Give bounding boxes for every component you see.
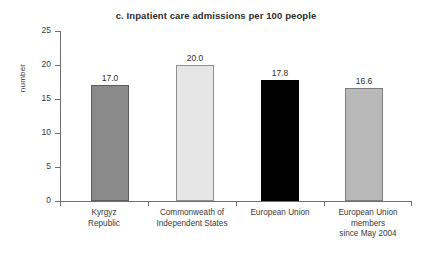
y-tick-25: 25	[55, 31, 60, 32]
x-tick-1	[148, 201, 149, 206]
y-tick-label-0: 0	[46, 195, 51, 205]
y-tick-label-25: 25	[42, 25, 51, 35]
x-tick-2	[236, 201, 237, 206]
x-category-label-1: Commonweath of Independent States	[148, 208, 236, 229]
x-tick-4	[411, 201, 412, 206]
y-tick-label-20: 20	[42, 59, 51, 69]
y-tick-label-5: 5	[46, 161, 51, 171]
chart-figure: c. Inpatient care admissions per 100 peo…	[0, 0, 432, 258]
y-axis-label: number	[18, 48, 30, 108]
plot-area: 0 5 10 15 20 25 17.0 20.0 17.8	[60, 31, 412, 201]
x-tick-0	[60, 201, 61, 206]
y-tick-5: 5	[55, 167, 60, 168]
x-tick-3	[324, 201, 325, 206]
bar-value-label: 17.8	[272, 68, 289, 78]
x-category-label-3: European Union members since May 2004	[324, 208, 412, 240]
y-tick-15: 15	[55, 99, 60, 100]
y-tick-20: 20	[55, 65, 60, 66]
y-tick-label-15: 15	[42, 93, 51, 103]
bar-value-label: 20.0	[187, 53, 204, 63]
bar-european-union[interactable]: 17.8	[261, 80, 299, 201]
y-tick-label-10: 10	[42, 127, 51, 137]
bar-european-union-members-since-may-2004[interactable]: 16.6	[345, 88, 383, 201]
bar-value-label: 17.0	[102, 73, 119, 83]
chart-title: c. Inpatient care admissions per 100 peo…	[0, 10, 432, 21]
bar-kyrgyz-republic[interactable]: 17.0	[91, 85, 129, 201]
y-tick-10: 10	[55, 133, 60, 134]
y-axis-line	[60, 31, 61, 201]
bar-value-label: 16.6	[356, 76, 373, 86]
x-category-label-0: Kyrgyz Republic	[60, 208, 148, 229]
bar-commonwealth-independent-states[interactable]: 20.0	[176, 65, 214, 201]
x-category-label-2: European Union	[236, 208, 324, 219]
